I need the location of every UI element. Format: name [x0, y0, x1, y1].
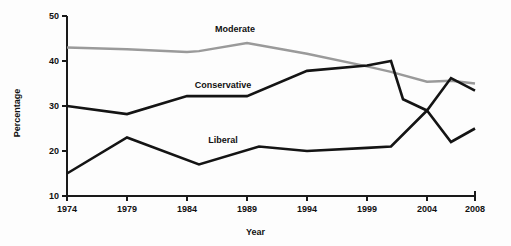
x-tick-label: 2008: [465, 204, 485, 214]
y-axis-label: Percentage: [10, 78, 24, 152]
x-tick-label: 1989: [237, 204, 257, 214]
x-tick-label: 2004: [417, 204, 437, 214]
x-tick-label: 1979: [117, 204, 137, 214]
series-label-moderate: Moderate: [215, 24, 255, 34]
x-axis-label-text: Year: [0, 227, 511, 237]
series-lines: [67, 43, 475, 174]
series-line-conservative: [67, 61, 475, 114]
tick-marks: [62, 16, 475, 201]
x-tick-label: 1974: [57, 204, 77, 214]
x-tick-label: 1999: [357, 204, 377, 214]
y-tick-label: 50: [31, 11, 59, 21]
series-line-liberal: [67, 111, 475, 174]
y-tick-label: 20: [31, 146, 59, 156]
series-label-liberal: Liberal: [208, 135, 238, 145]
y-tick-label: 30: [31, 101, 59, 111]
series-label-conservative: Conservative: [195, 80, 252, 90]
series-line-moderate: [67, 43, 475, 84]
y-tick-label: 40: [31, 56, 59, 66]
axis-lines: [67, 16, 475, 196]
x-tick-label: 1984: [177, 204, 197, 214]
x-tick-label: 1994: [297, 204, 317, 214]
y-tick-label: 10: [31, 191, 59, 201]
y-axis-label-text: Percentage: [12, 76, 22, 150]
line-chart: Percentage Year 102030405019741979198419…: [0, 0, 511, 246]
